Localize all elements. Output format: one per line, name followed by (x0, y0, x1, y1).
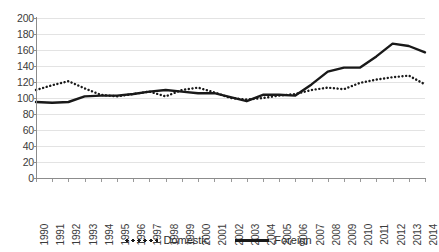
y-axis-tick-label: 100 (0, 93, 34, 103)
y-axis-line (36, 17, 37, 179)
y-axis-tick-label: 160 (0, 45, 34, 55)
y-axis-tickmark (33, 162, 36, 163)
legend-swatch-foreign-icon (235, 239, 269, 242)
y-axis-tickmark (33, 146, 36, 147)
y-axis-tick-label: 80 (0, 109, 34, 119)
chart-legend: Domestic Foreign (0, 231, 436, 249)
y-axis-tick-label: 60 (0, 125, 34, 135)
series-layer (36, 18, 425, 178)
y-axis-labels: 020406080100120140160180200 (0, 0, 34, 252)
y-axis-tickmark (33, 114, 36, 115)
x-axis-tickmark (425, 179, 426, 182)
series-line-foreign (36, 44, 425, 103)
y-axis-tickmark (33, 50, 36, 51)
y-axis-tick-label: 40 (0, 141, 34, 151)
y-axis-tick-label: 200 (0, 13, 34, 23)
x-axis-labels: 1990199119921993199419951996199719981999… (36, 182, 425, 226)
plot-area (36, 18, 425, 178)
legend-label-domestic: Domestic (163, 235, 209, 246)
y-axis-tickmark (33, 82, 36, 83)
legend-item-foreign: Foreign (235, 235, 311, 246)
y-axis-tickmark (33, 66, 36, 67)
y-axis-tick-label: 140 (0, 61, 34, 71)
y-axis-tick-label: 0 (0, 173, 34, 183)
y-axis-tick-label: 120 (0, 77, 34, 87)
y-axis-tickmark (33, 98, 36, 99)
y-axis-tick-label: 20 (0, 157, 34, 167)
clipped-top-row (0, 0, 436, 7)
y-axis-tick-label: 180 (0, 29, 34, 39)
legend-swatch-domestic-icon (124, 239, 158, 242)
y-axis-tickmark (33, 130, 36, 131)
legend-item-domestic: Domestic (124, 235, 209, 246)
y-axis-tickmark (33, 18, 36, 19)
legend-label-foreign: Foreign (274, 235, 311, 246)
y-axis-tickmark (33, 34, 36, 35)
